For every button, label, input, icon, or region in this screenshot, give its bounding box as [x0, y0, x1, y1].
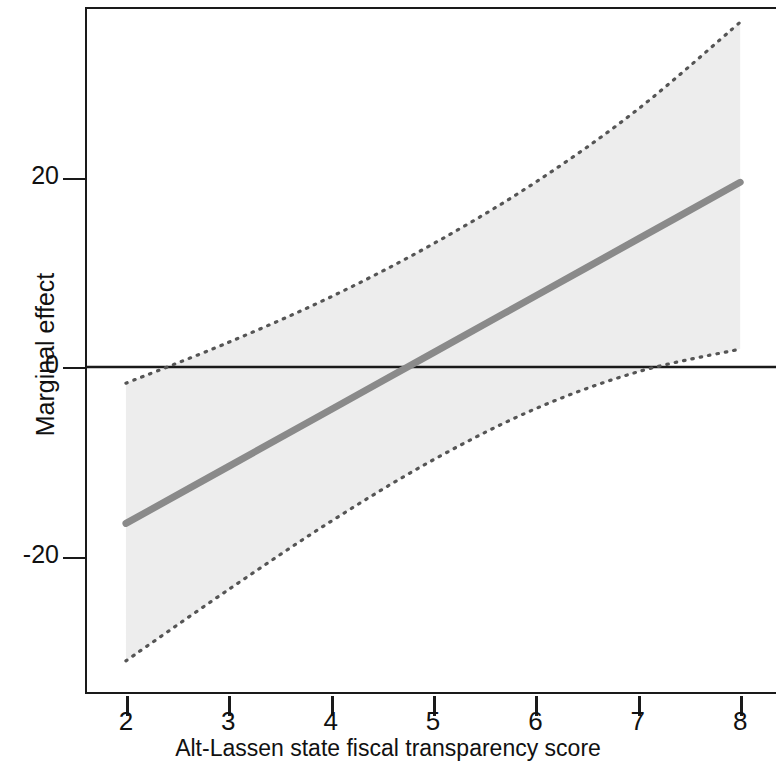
y-axis-title: Marginal effect — [31, 225, 60, 485]
y-axis-tick-label: -20 — [23, 540, 59, 569]
x-axis-tick-label: 7 — [608, 706, 668, 737]
x-axis-tick-label: 3 — [198, 706, 258, 737]
x-axis-tick-label: 8 — [710, 706, 770, 737]
y-axis-tick — [63, 178, 85, 180]
x-axis-tick-label: 2 — [96, 706, 156, 737]
y-axis-tick — [63, 557, 85, 559]
chart-figure: 200-20 Marginal effect 2345678 Alt-Lasse… — [0, 0, 776, 769]
x-axis-title: Alt-Lassen state fiscal transparency sco… — [0, 735, 776, 762]
y-axis-tick — [63, 367, 85, 369]
x-axis-tick-label: 5 — [403, 706, 463, 737]
x-axis-tick-label: 4 — [301, 706, 361, 737]
plot-frame — [85, 7, 776, 694]
x-axis-tick-label: 6 — [505, 706, 565, 737]
y-axis-tick-label: 20 — [31, 161, 59, 190]
